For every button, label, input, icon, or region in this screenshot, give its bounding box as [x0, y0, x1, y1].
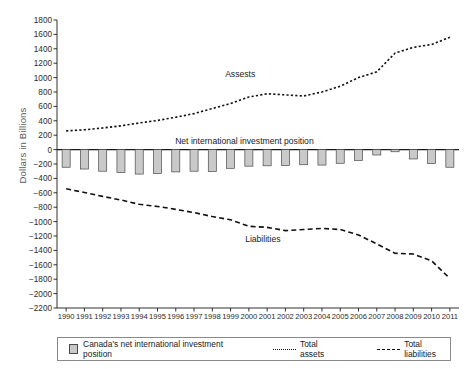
x-tick-label: 2010: [423, 312, 440, 321]
chart-container: Dollars in Billions 18001600140012001000…: [0, 0, 472, 369]
legend-label-assets: Total assets: [300, 339, 339, 359]
assets-line: [66, 37, 450, 131]
bar-1992: [99, 150, 107, 172]
bars-group: [62, 150, 454, 174]
x-tick-label: 2007: [368, 312, 385, 321]
bar-2001: [263, 150, 271, 166]
x-tick-label: 2009: [405, 312, 422, 321]
bar-2003: [300, 150, 308, 165]
bar-2000: [245, 150, 253, 167]
bar-1999: [227, 150, 235, 169]
dashed-line-icon: [377, 349, 400, 350]
bar-1993: [117, 150, 125, 173]
bar-2004: [318, 150, 326, 165]
bar-2009: [409, 150, 417, 159]
x-tick-label: 2001: [259, 312, 276, 321]
assets-annotation: Assests: [225, 69, 255, 79]
legend-item-liabilities[interactable]: Total liabilities: [377, 339, 450, 359]
axes-group: [54, 20, 460, 312]
bar-1995: [153, 150, 161, 174]
x-tick-label: 2005: [332, 312, 349, 321]
bar-2006: [354, 150, 362, 161]
square-swatch-icon: [69, 344, 78, 354]
x-tick-label: 1993: [113, 312, 130, 321]
x-tick-label: 2002: [277, 312, 294, 321]
x-tick-label: 1994: [131, 312, 148, 321]
dotted-line-icon: [273, 349, 296, 350]
legend-label-liabilities: Total liabilities: [404, 339, 450, 359]
bar-2002: [281, 150, 289, 166]
x-tick-label: 1997: [186, 312, 203, 321]
x-tick-label: 1991: [76, 312, 93, 321]
bar-1990: [62, 150, 70, 168]
nip-annotation: Net international investment position: [175, 136, 314, 146]
x-tick-label: 2006: [350, 312, 367, 321]
bar-1994: [135, 150, 143, 174]
x-tick-label: 1992: [94, 312, 111, 321]
x-tick-label: 1995: [149, 312, 166, 321]
x-tick-label: 1996: [167, 312, 184, 321]
bar-2010: [428, 150, 436, 164]
x-tick-label: 1990: [58, 312, 75, 321]
x-tick-label: 2004: [314, 312, 331, 321]
legend-label-nip: Canada's net international investment po…: [83, 339, 235, 359]
bar-1996: [172, 150, 180, 172]
bar-1998: [208, 150, 216, 172]
x-tick-label: 2011: [442, 312, 458, 321]
legend-item-nip[interactable]: Canada's net international investment po…: [69, 339, 235, 359]
bar-1991: [80, 150, 88, 169]
bar-2011: [446, 150, 454, 168]
bar-2007: [373, 150, 381, 155]
bar-2005: [336, 150, 344, 164]
liabilities-annotation: Liabilities: [245, 234, 280, 244]
x-tick-label: 2000: [240, 312, 257, 321]
bar-1997: [190, 150, 198, 172]
chart-legend: Canada's net international investment po…: [57, 337, 451, 361]
x-tick-label: 1998: [204, 312, 221, 321]
legend-item-assets[interactable]: Total assets: [273, 339, 339, 359]
bar-2008: [391, 150, 399, 152]
x-tick-label: 1999: [222, 312, 239, 321]
x-tick-label: 2008: [387, 312, 404, 321]
x-tick-label: 2003: [295, 312, 312, 321]
